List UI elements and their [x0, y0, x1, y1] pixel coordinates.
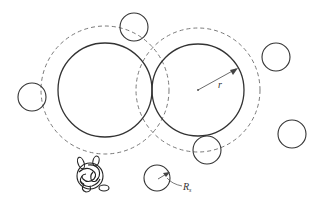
small-particle-bottom-middle — [193, 136, 221, 164]
small-particle-far-right — [278, 120, 306, 148]
small-particle-top — [120, 13, 148, 41]
particle-depletion-diagram: r Rs — [0, 0, 321, 209]
radius-r-label: r — [218, 79, 222, 90]
left-exclusion-zone-dashed — [41, 26, 169, 154]
left-large-particle — [58, 43, 152, 137]
radius-r-indicator: r — [197, 68, 238, 91]
small-particle-left — [18, 83, 46, 111]
small-particle-upper-right — [262, 43, 290, 71]
radius-rs-label: Rs — [182, 181, 192, 193]
small-particle-labeled — [144, 165, 170, 191]
polymer-coil — [76, 155, 109, 192]
